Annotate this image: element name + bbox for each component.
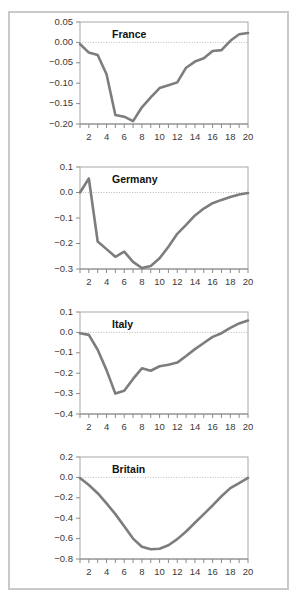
panel-title-germany: Germany bbox=[112, 173, 158, 185]
y-tick-label-italy-0: 0.1 bbox=[60, 306, 73, 317]
y-tick-label-germany-1: 0.0 bbox=[60, 186, 73, 197]
x-tick-label-italy-6: 14 bbox=[190, 421, 201, 432]
x-tick-label-germany-3: 8 bbox=[139, 276, 144, 287]
x-tick-label-germany-0: 2 bbox=[86, 276, 91, 287]
y-tick-label-italy-3: −0.2 bbox=[54, 367, 73, 378]
chart-svg-britain: 0.20.0−0.2−0.4−0.6−0.82468101214161820Br… bbox=[8, 446, 289, 591]
chart-svg-france: 0.050.00−0.05−0.10−0.15−0.20246810121416… bbox=[8, 11, 289, 156]
x-tick-label-france-6: 14 bbox=[190, 131, 201, 142]
figure-root: 0.050.00−0.05−0.10−0.15−0.20246810121416… bbox=[0, 0, 301, 604]
y-tick-label-germany-0: 0.1 bbox=[60, 161, 73, 172]
y-tick-label-britain-1: 0.0 bbox=[60, 471, 73, 482]
x-tick-label-france-4: 10 bbox=[154, 131, 165, 142]
x-tick-label-italy-5: 12 bbox=[172, 421, 183, 432]
panel-title-britain: Britain bbox=[112, 463, 145, 475]
x-tick-label-france-0: 2 bbox=[86, 131, 91, 142]
y-tick-label-italy-2: −0.1 bbox=[54, 346, 73, 357]
x-tick-label-germany-8: 18 bbox=[225, 276, 236, 287]
panel-title-france: France bbox=[112, 28, 147, 40]
y-tick-label-france-5: −0.20 bbox=[49, 118, 73, 129]
x-tick-label-france-1: 4 bbox=[104, 131, 109, 142]
x-tick-label-britain-8: 18 bbox=[225, 566, 236, 577]
x-tick-label-germany-5: 12 bbox=[172, 276, 183, 287]
x-tick-label-france-9: 20 bbox=[243, 131, 254, 142]
y-tick-label-germany-4: −0.3 bbox=[54, 263, 73, 274]
y-tick-label-italy-5: −0.4 bbox=[54, 408, 73, 419]
x-tick-label-france-5: 12 bbox=[172, 131, 183, 142]
x-tick-label-britain-1: 4 bbox=[104, 566, 109, 577]
x-tick-label-italy-4: 10 bbox=[154, 421, 165, 432]
x-tick-label-germany-1: 4 bbox=[104, 276, 109, 287]
chart-panel-italy: 0.10.0−0.1−0.2−0.3−0.42468101214161820It… bbox=[8, 301, 289, 446]
x-tick-label-germany-4: 10 bbox=[154, 276, 165, 287]
x-tick-label-germany-6: 14 bbox=[190, 276, 201, 287]
y-tick-label-france-1: 0.00 bbox=[55, 36, 74, 47]
y-tick-label-germany-3: −0.2 bbox=[54, 237, 73, 248]
x-tick-label-germany-2: 6 bbox=[122, 276, 127, 287]
x-tick-label-france-8: 18 bbox=[225, 131, 236, 142]
chart-svg-italy: 0.10.0−0.1−0.2−0.3−0.42468101214161820It… bbox=[8, 301, 289, 446]
x-tick-label-italy-3: 8 bbox=[139, 421, 144, 432]
y-tick-label-germany-2: −0.1 bbox=[54, 212, 73, 223]
panel-title-italy: Italy bbox=[112, 318, 133, 330]
x-tick-label-france-7: 16 bbox=[207, 131, 218, 142]
y-tick-label-france-0: 0.05 bbox=[55, 16, 74, 27]
x-tick-label-britain-3: 8 bbox=[139, 566, 144, 577]
x-tick-label-italy-1: 4 bbox=[104, 421, 109, 432]
y-tick-label-france-2: −0.05 bbox=[49, 56, 73, 67]
x-tick-label-britain-7: 16 bbox=[207, 566, 218, 577]
y-tick-label-britain-2: −0.2 bbox=[54, 491, 73, 502]
chart-panel-france: 0.050.00−0.05−0.10−0.15−0.20246810121416… bbox=[8, 11, 289, 156]
chart-panel-germany: 0.10.0−0.1−0.2−0.32468101214161820German… bbox=[8, 156, 289, 301]
x-tick-label-germany-7: 16 bbox=[207, 276, 218, 287]
y-tick-label-italy-1: 0.0 bbox=[60, 326, 73, 337]
plot-area-italy bbox=[80, 312, 248, 414]
y-tick-label-france-3: −0.10 bbox=[49, 77, 73, 88]
x-tick-label-italy-9: 20 bbox=[243, 421, 254, 432]
x-tick-label-france-2: 6 bbox=[122, 131, 127, 142]
x-tick-label-britain-4: 10 bbox=[154, 566, 165, 577]
chart-panel-britain: 0.20.0−0.2−0.4−0.6−0.82468101214161820Br… bbox=[8, 446, 289, 591]
y-tick-label-britain-5: −0.8 bbox=[54, 553, 73, 564]
y-tick-label-britain-3: −0.4 bbox=[54, 512, 73, 523]
x-tick-label-britain-5: 12 bbox=[172, 566, 183, 577]
y-tick-label-france-4: −0.15 bbox=[49, 97, 73, 108]
x-tick-label-italy-2: 6 bbox=[122, 421, 127, 432]
x-tick-label-britain-6: 14 bbox=[190, 566, 201, 577]
y-tick-label-italy-4: −0.3 bbox=[54, 387, 73, 398]
x-tick-label-italy-0: 2 bbox=[86, 421, 91, 432]
x-tick-label-britain-0: 2 bbox=[86, 566, 91, 577]
x-tick-label-france-3: 8 bbox=[139, 131, 144, 142]
x-tick-label-italy-8: 18 bbox=[225, 421, 236, 432]
plot-area-britain bbox=[80, 457, 248, 559]
y-tick-label-britain-4: −0.6 bbox=[54, 532, 73, 543]
chart-svg-germany: 0.10.0−0.1−0.2−0.32468101214161820German… bbox=[8, 156, 289, 301]
x-tick-label-italy-7: 16 bbox=[207, 421, 218, 432]
x-tick-label-britain-9: 20 bbox=[243, 566, 254, 577]
x-tick-label-germany-9: 20 bbox=[243, 276, 254, 287]
x-tick-label-britain-2: 6 bbox=[122, 566, 127, 577]
y-tick-label-britain-0: 0.2 bbox=[60, 451, 73, 462]
